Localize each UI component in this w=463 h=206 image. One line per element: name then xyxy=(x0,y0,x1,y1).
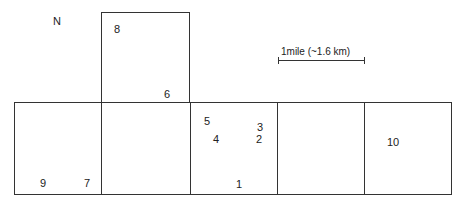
scale-tick-left xyxy=(278,57,279,64)
cell-row-2 xyxy=(101,102,191,195)
site-label-4: 4 xyxy=(213,134,219,145)
scale-label: 1mile (~1.6 km) xyxy=(281,46,350,57)
site-label-3: 3 xyxy=(257,122,263,133)
site-label-9: 9 xyxy=(40,178,46,189)
site-label-1: 1 xyxy=(236,179,242,190)
cell-row-4 xyxy=(277,102,365,195)
north-label: N xyxy=(53,16,61,27)
site-label-2: 2 xyxy=(256,134,262,145)
site-label-6: 6 xyxy=(164,89,170,100)
site-label-8: 8 xyxy=(114,24,120,35)
scale-tick-right xyxy=(364,57,365,64)
site-label-7: 7 xyxy=(84,178,90,189)
site-label-5: 5 xyxy=(204,116,210,127)
cell-row-5 xyxy=(364,102,452,195)
site-label-10: 10 xyxy=(387,137,399,148)
scale-line xyxy=(278,60,365,61)
